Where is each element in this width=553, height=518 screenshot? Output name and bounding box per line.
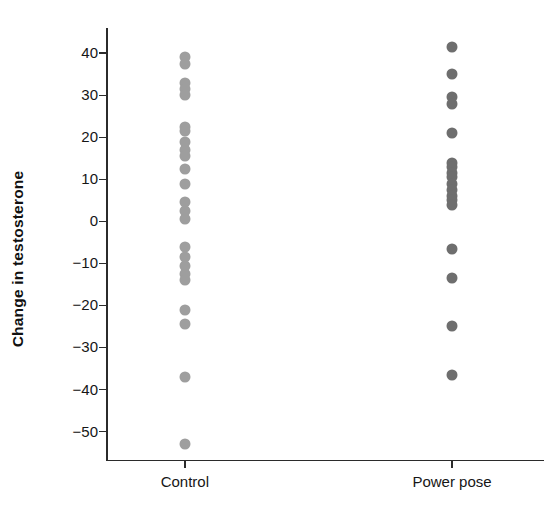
y-tick-mark bbox=[99, 305, 106, 307]
y-axis-tick-labels: 403020100−10−20−30−40−50 bbox=[42, 28, 98, 461]
y-tick-label: 40 bbox=[81, 45, 98, 60]
data-point bbox=[447, 41, 458, 52]
data-point bbox=[179, 241, 190, 252]
data-point bbox=[447, 273, 458, 284]
y-tick-label: −10 bbox=[73, 255, 98, 270]
y-axis-title: Change in testosterone bbox=[0, 0, 36, 518]
data-point bbox=[447, 98, 458, 109]
plot-area: 403020100−10−20−30−40−50 ControlPower po… bbox=[106, 28, 544, 461]
data-point bbox=[179, 151, 190, 162]
y-tick-mark bbox=[99, 221, 106, 223]
y-tick-label: −20 bbox=[73, 297, 98, 312]
y-tick-mark bbox=[99, 52, 106, 54]
data-point bbox=[179, 90, 190, 101]
data-point bbox=[447, 199, 458, 210]
dot-plot-figure: Change in testosterone 403020100−10−20−3… bbox=[0, 0, 553, 518]
data-point bbox=[179, 275, 190, 286]
y-tick-mark bbox=[99, 389, 106, 391]
data-point bbox=[447, 369, 458, 380]
x-tick-mark bbox=[451, 461, 453, 468]
data-point bbox=[179, 178, 190, 189]
y-axis-line bbox=[106, 28, 108, 461]
y-tick-label: 0 bbox=[90, 213, 98, 228]
data-point bbox=[179, 163, 190, 174]
y-tick-label: 30 bbox=[81, 87, 98, 102]
data-point bbox=[179, 439, 190, 450]
data-point bbox=[179, 319, 190, 330]
data-point bbox=[179, 371, 190, 382]
y-tick-mark bbox=[99, 137, 106, 139]
y-tick-label: 10 bbox=[81, 171, 98, 186]
data-point bbox=[179, 214, 190, 225]
y-tick-mark bbox=[99, 347, 106, 349]
y-tick-label: −50 bbox=[73, 424, 98, 439]
y-tick-mark bbox=[99, 95, 106, 97]
x-tick-label-power-pose: Power pose bbox=[412, 474, 491, 489]
data-point bbox=[447, 128, 458, 139]
data-point bbox=[179, 125, 190, 136]
y-tick-mark bbox=[99, 431, 106, 433]
x-tick-label-control: Control bbox=[161, 474, 209, 489]
data-point bbox=[179, 304, 190, 315]
y-tick-label: −30 bbox=[73, 339, 98, 354]
data-point bbox=[179, 58, 190, 69]
y-tick-mark bbox=[99, 263, 106, 265]
x-axis-line bbox=[106, 460, 544, 462]
y-tick-label: −40 bbox=[73, 382, 98, 397]
data-point bbox=[447, 243, 458, 254]
x-tick-mark bbox=[184, 461, 186, 468]
data-point bbox=[447, 321, 458, 332]
data-point bbox=[447, 69, 458, 80]
y-tick-label: 20 bbox=[81, 129, 98, 144]
y-tick-mark bbox=[99, 179, 106, 181]
